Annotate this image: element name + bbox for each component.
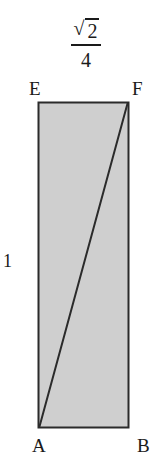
- vertex-label-B: B: [137, 436, 150, 455]
- radical-expression: √2: [73, 18, 100, 41]
- square-root-icon: √: [74, 18, 85, 38]
- fraction-denominator: 4: [71, 48, 102, 70]
- radicand-value: 2: [85, 18, 99, 41]
- width-measurement-label: √2 4: [58, 18, 114, 71]
- vertex-label-E: E: [29, 79, 41, 98]
- fraction-numerator: √2: [71, 18, 102, 43]
- vertex-label-F: F: [132, 79, 143, 98]
- vertex-label-A: A: [32, 436, 46, 455]
- fraction: √2 4: [71, 18, 102, 70]
- geometry-figure: E F A B 1 √2 4: [0, 0, 168, 461]
- fraction-bar: [71, 44, 102, 46]
- height-measurement-label: 1: [3, 252, 12, 270]
